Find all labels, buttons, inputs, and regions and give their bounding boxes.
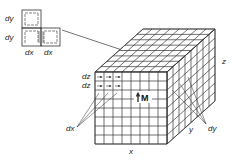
pointer-arrow [62,30,128,52]
dz-label-1: dz [82,72,90,81]
block-grid [95,29,215,144]
dz-label-2: dz [82,81,90,90]
magnetization-label: M [141,93,149,103]
inset-dy-top-label: dy [5,14,14,23]
y-axis-label: y [188,125,194,134]
inset-dx-right-label: dx [44,48,53,57]
x-axis-label: x [128,147,134,156]
inset-cells [22,10,60,46]
dx-label: dx [66,124,75,133]
dy-label: dy [208,124,217,133]
magnetization-grid-diagram: dy dy dx dx dz dz M dx dy x y z [0,0,236,159]
inset-dx-left-label: dx [25,48,34,57]
z-axis-label: z [221,57,226,66]
inset-dy-bottom-label: dy [5,33,14,42]
